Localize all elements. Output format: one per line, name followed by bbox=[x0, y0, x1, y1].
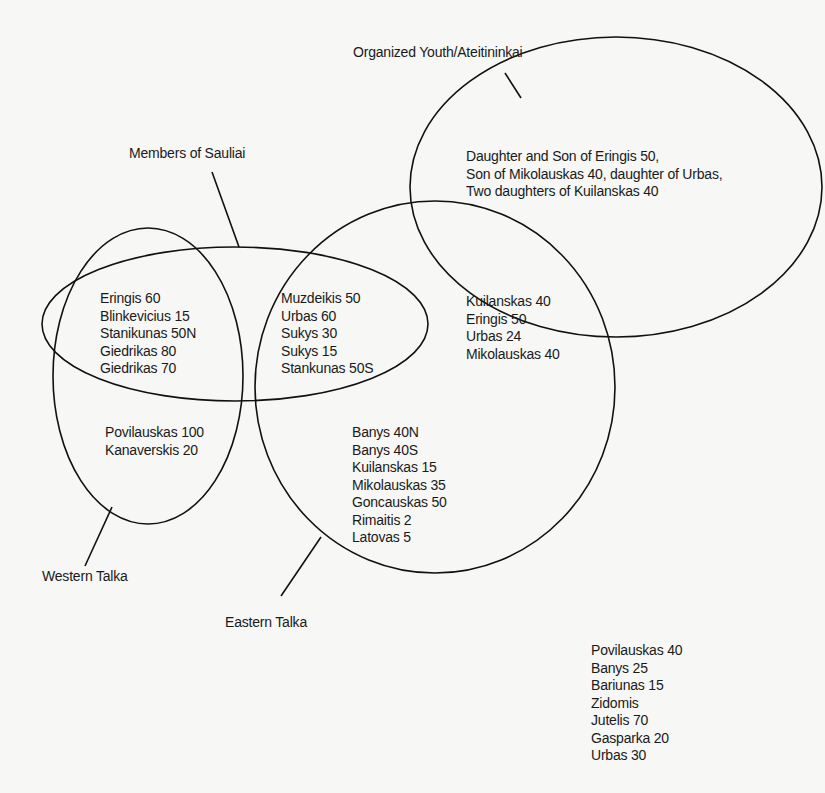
outside-all-members: Povilauskas 40 Banys 25 Bariunas 15 Zido… bbox=[591, 642, 682, 765]
list-item: Jutelis 70 bbox=[591, 712, 682, 730]
list-item: Sukys 30 bbox=[281, 325, 373, 343]
eastern-youth-members: Kuilanskas 40 Eringis 50 Urbas 24 Mikola… bbox=[466, 293, 560, 363]
venn-diagram: Organized Youth/Ateitininkai Members of … bbox=[0, 0, 825, 793]
list-item: Muzdeikis 50 bbox=[281, 290, 373, 308]
youth-only-members: Daughter and Son of Eringis 50, Son of M… bbox=[466, 148, 722, 201]
sauliai-leader-line bbox=[212, 172, 239, 247]
list-item: Urbas 30 bbox=[591, 747, 682, 765]
list-item: Urbas 60 bbox=[281, 308, 373, 326]
western-leader-line bbox=[85, 507, 112, 566]
list-item: Kuilanskas 15 bbox=[352, 459, 447, 477]
organized-youth-label: Organized Youth/Ateitininkai bbox=[353, 44, 523, 61]
list-item: Povilauskas 100 bbox=[105, 424, 204, 442]
list-item: Kanaverskis 20 bbox=[105, 442, 204, 460]
list-item: Urbas 24 bbox=[466, 328, 560, 346]
western-sauliai-members: Eringis 60 Blinkevicius 15 Stanikunas 50… bbox=[100, 290, 196, 378]
list-item: Kuilanskas 40 bbox=[466, 293, 560, 311]
list-item: Eringis 60 bbox=[100, 290, 196, 308]
list-item: Rimaitis 2 bbox=[352, 512, 447, 530]
list-item: Blinkevicius 15 bbox=[100, 308, 196, 326]
list-item: Latovas 5 bbox=[352, 529, 447, 547]
list-item: Daughter and Son of Eringis 50, bbox=[466, 148, 722, 166]
eastern-talka-label: Eastern Talka bbox=[225, 614, 307, 631]
eastern-sauliai-members: Muzdeikis 50 Urbas 60 Sukys 30 Sukys 15 … bbox=[281, 290, 373, 378]
list-item: Sukys 15 bbox=[281, 343, 373, 361]
list-item: Bariunas 15 bbox=[591, 677, 682, 695]
list-item: Giedrikas 80 bbox=[100, 343, 196, 361]
list-item: Two daughters of Kuilanskas 40 bbox=[466, 183, 722, 201]
youth-leader-line bbox=[505, 73, 521, 98]
western-only-members: Povilauskas 100 Kanaverskis 20 bbox=[105, 424, 204, 459]
list-item: Banys 25 bbox=[591, 660, 682, 678]
list-item: Gasparka 20 bbox=[591, 730, 682, 748]
list-item: Mikolauskas 35 bbox=[352, 477, 447, 495]
list-item: Giedrikas 70 bbox=[100, 360, 196, 378]
list-item: Son of Mikolauskas 40, daughter of Urbas… bbox=[466, 166, 722, 184]
list-item: Banys 40N bbox=[352, 424, 447, 442]
list-item: Goncauskas 50 bbox=[352, 494, 447, 512]
sauliai-label: Members of Sauliai bbox=[129, 145, 245, 162]
list-item: Stanikunas 50N bbox=[100, 325, 196, 343]
diagram-shapes bbox=[0, 0, 825, 793]
list-item: Mikolauskas 40 bbox=[466, 346, 560, 364]
list-item: Zidomis bbox=[591, 695, 682, 713]
eastern-leader-line bbox=[281, 537, 321, 596]
list-item: Eringis 50 bbox=[466, 311, 560, 329]
list-item: Stankunas 50S bbox=[281, 360, 373, 378]
list-item: Povilauskas 40 bbox=[591, 642, 682, 660]
western-talka-label: Western Talka bbox=[42, 568, 128, 585]
list-item: Banys 40S bbox=[352, 442, 447, 460]
eastern-only-members: Banys 40N Banys 40S Kuilanskas 15 Mikola… bbox=[352, 424, 447, 547]
